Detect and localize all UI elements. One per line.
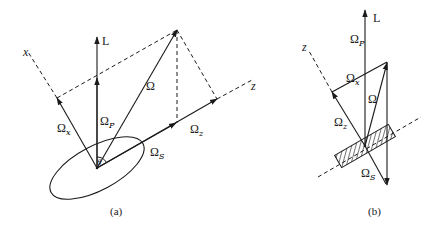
- omega-vector: [97, 30, 177, 168]
- origin-point: [364, 145, 367, 148]
- panel-a: L x z Ω ΩP Ωx Ωz ΩS θ (a): [22, 30, 256, 218]
- z-axis-dashed: [217, 80, 252, 99]
- label-omega-z: Ωz: [190, 122, 204, 138]
- z-axis-dashed: [309, 51, 332, 92]
- diagram-canvas: L x z Ω ΩP Ωx Ωz ΩS θ (a): [0, 0, 438, 228]
- label-z-axis: z: [250, 79, 256, 93]
- panel-b: L z ΩP Ωx Ω Ωz ΩS (b): [301, 10, 421, 218]
- label-omega-z: Ωz: [334, 115, 348, 131]
- label-z-axis: z: [301, 40, 307, 54]
- label-l: L: [373, 11, 380, 25]
- caption-b: (b): [368, 205, 381, 218]
- label-omega-p: ΩP: [100, 114, 115, 130]
- x-axis-dashed: [28, 52, 57, 98]
- label-omega: Ω: [368, 92, 377, 106]
- label-l: L: [102, 34, 109, 48]
- projection-dashed-x: [57, 30, 177, 98]
- label-x-axis: x: [22, 45, 29, 59]
- label-omega-p: ΩP: [350, 32, 365, 48]
- caption-a: (a): [110, 205, 123, 218]
- label-omega: Ω: [146, 79, 155, 93]
- label-theta: θ: [97, 157, 102, 167]
- projection-dashed-z: [177, 30, 217, 99]
- label-omega-x: Ωx: [346, 71, 360, 87]
- origin-point: [96, 167, 99, 170]
- omega-x-line: [332, 62, 387, 92]
- label-omega-s: ΩS: [150, 145, 165, 161]
- label-omega-s: ΩS: [361, 166, 376, 182]
- label-omega-x: Ωx: [57, 121, 71, 137]
